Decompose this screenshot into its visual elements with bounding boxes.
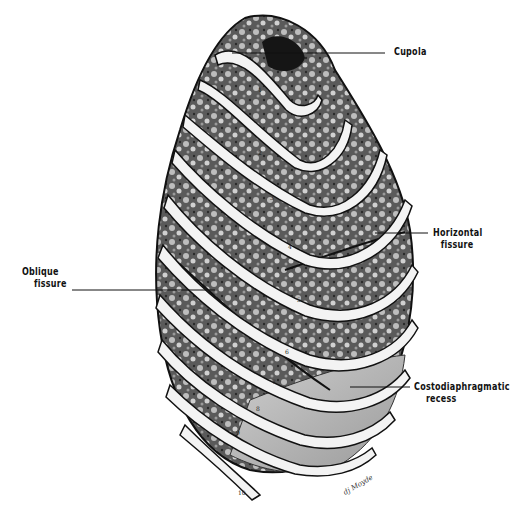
label-oblique-fissure-line1: Oblique: [22, 265, 67, 277]
label-cupola: Cupola: [394, 45, 427, 57]
rib-number-3: 3: [270, 194, 274, 201]
lung-ribcage-illustration: 1 2 3 4 5 6 7 8 9 10 dj Moyde: [0, 0, 524, 526]
rib-number-8: 8: [256, 405, 260, 412]
rib-number-5: 5: [297, 296, 301, 303]
label-costodiaphragmatic-recess: Costodiaphragmatic recess: [414, 380, 510, 404]
label-oblique-fissure-line2: fissure: [22, 277, 67, 289]
label-costodiaphragmatic-recess-line2: recess: [414, 392, 510, 404]
rib-number-10: 10: [238, 489, 246, 496]
anatomy-figure: 1 2 3 4 5 6 7 8 9 10 dj Moyde Cupola Hor…: [0, 0, 524, 526]
label-cupola-text: Cupola: [394, 45, 427, 57]
rib-number-4: 4: [288, 243, 292, 250]
rib-number-6: 6: [285, 348, 289, 355]
label-horizontal-fissure-line2: fissure: [433, 238, 482, 250]
rib-number-1: 1: [258, 86, 262, 93]
rib-number-2: 2: [258, 149, 262, 156]
label-oblique-fissure: Oblique fissure: [22, 265, 67, 289]
label-horizontal-fissure: Horizontal fissure: [433, 226, 482, 250]
artist-signature: dj Moyde: [342, 473, 374, 496]
rib-number-9: 9: [236, 429, 240, 436]
label-horizontal-fissure-line1: Horizontal: [433, 226, 482, 238]
label-costodiaphragmatic-recess-line1: Costodiaphragmatic: [414, 380, 510, 392]
rib-number-7: 7: [272, 378, 276, 385]
